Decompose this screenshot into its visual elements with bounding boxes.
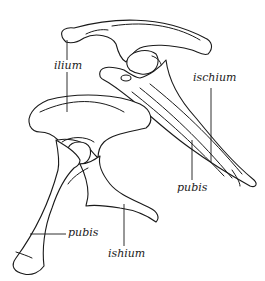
- label-lower-ischium: ishium: [108, 248, 145, 259]
- lower-ischium-shape: [80, 156, 158, 222]
- label-upper-ischium: ischium: [193, 72, 236, 83]
- pelvis-diagram: ilium ischium pubis pubis ishium: [0, 0, 265, 281]
- upper-acetabulum-shape: [127, 51, 158, 75]
- label-lower-pubis: pubis: [68, 227, 98, 238]
- pelvis-drawing: [0, 0, 265, 281]
- label-ilium: ilium: [54, 60, 82, 71]
- label-upper-pubis: pubis: [177, 182, 207, 193]
